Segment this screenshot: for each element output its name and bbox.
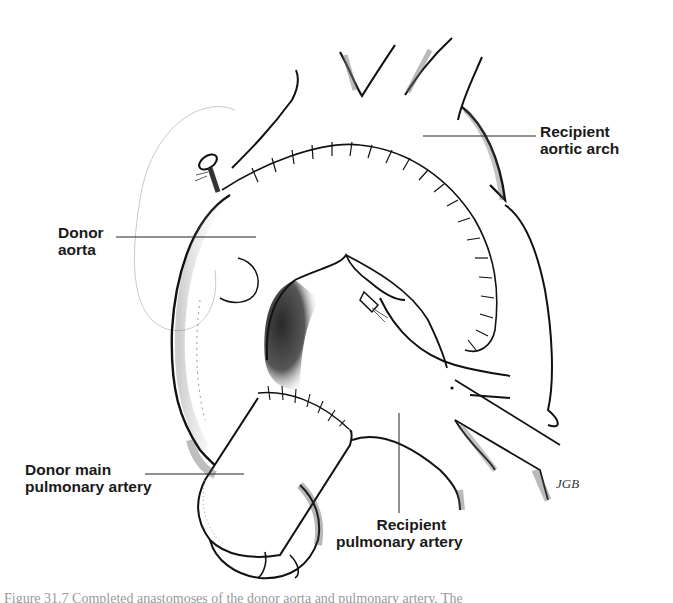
label-recipient-aortic-arch: Recipient aortic arch [540,123,619,157]
label-donor-main-pulmonary-artery: Donor main pulmonary artery [25,461,152,495]
label-line: Recipient [540,123,619,140]
surgical-illustration: Recipient aortic arch Donor aorta Donor … [0,0,673,603]
figure-caption: Figure 31.7 Completed anastomoses of the… [4,592,673,603]
label-line: pulmonary artery [336,533,463,550]
label-recipient-pulmonary-artery: Recipient pulmonary artery [360,516,463,550]
leader-lines [0,0,673,603]
label-line: Donor [58,224,104,241]
label-line: aortic arch [540,140,619,157]
label-line: Donor main [25,461,152,478]
label-line: pulmonary artery [25,478,152,495]
label-line: Recipient [360,516,463,533]
label-donor-aorta: Donor aorta [58,224,104,258]
label-line: aorta [58,241,104,258]
artist-signature: JGB [556,476,579,492]
